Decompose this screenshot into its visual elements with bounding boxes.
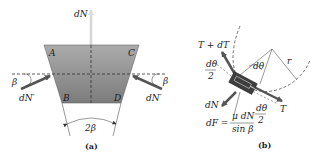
groove-line-right [113,103,121,136]
dn-prime-right-arrow [133,76,162,89]
label-half-dtheta-left-den: 2 [207,71,214,81]
dN-arrow [222,92,236,106]
tension-T-arrow [252,86,282,101]
caption-b: (b) [258,140,271,150]
figure-a: dN A B C D β dN′ β dN′ 2β (a) [11,9,168,151]
label-half-dtheta-left-num: dθ [206,59,218,69]
label-T: T [280,104,287,114]
label-dtheta-center: dθ [253,61,265,71]
label-T-plus-dT: T + dT [198,40,230,50]
label-r: r [287,56,292,66]
belt-element [229,72,258,95]
label-dF: dF = [206,118,228,128]
radius-line-right [272,49,297,80]
label-2beta: 2β [84,123,96,133]
label-half-dtheta-right-num: dθ [256,103,268,113]
label-C: C [128,48,135,58]
caption-a: (a) [85,141,98,151]
label-D: D [113,93,121,103]
label-half-dtheta-right-den: 2 [257,115,264,125]
dn-prime-left-arrow [21,76,50,89]
label-dN-top: dN [74,9,89,19]
label-A: A [48,48,56,58]
figure-b: r dθ T + dT T dN dθ 2 dθ 2 dF = μ dN [198,26,310,150]
label-dN-prime-right: dN′ [146,93,162,103]
label-B: B [62,93,70,103]
label-sin-beta: sin β [232,124,253,134]
label-dN-prime-left: dN′ [19,93,35,103]
label-dN: dN [205,100,220,110]
label-beta-left: β [11,77,17,87]
belt-friction-diagram: dN A B C D β dN′ β dN′ 2β (a) [0,0,326,161]
label-mu-dN: μ dN [232,111,255,121]
label-beta-right: β [162,76,168,86]
groove-line-left [62,103,70,136]
